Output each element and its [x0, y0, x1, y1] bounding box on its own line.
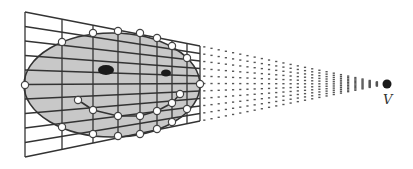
ray-dot [325, 93, 327, 94]
ray-dot [261, 108, 263, 109]
ray-dot [232, 71, 234, 72]
ray-dot [275, 70, 277, 71]
ray-dot [325, 73, 327, 74]
ray-dot [239, 83, 241, 84]
ray-dot [239, 53, 241, 54]
ray-dot [340, 89, 342, 90]
ray-dot [275, 101, 277, 102]
ray-dot [290, 71, 292, 72]
ray-dot [225, 83, 227, 84]
ray-dot [254, 88, 256, 89]
ray-dot [218, 117, 220, 118]
ray-dot [290, 83, 292, 84]
ray-dot [246, 111, 248, 112]
ray-dot [290, 68, 292, 69]
ray-dot [268, 107, 270, 108]
ray-dot [333, 85, 335, 86]
ray-dot [311, 68, 313, 69]
ray-dot [218, 49, 220, 50]
ray-dot [246, 105, 248, 106]
ray-dot [354, 84, 356, 85]
mouth-point [114, 112, 121, 119]
ray-dot [282, 66, 284, 67]
ray-dot [254, 56, 256, 57]
outline-point [114, 27, 121, 34]
ray-dot [232, 95, 234, 96]
ray-dot [290, 79, 292, 80]
ray-dot [268, 102, 270, 103]
ray-dot [347, 91, 349, 92]
ray-dot [311, 80, 313, 81]
ray-dot [340, 83, 342, 84]
ray-dot [354, 87, 356, 88]
ray-dot [232, 58, 234, 59]
ray-dot [239, 95, 241, 96]
ray-dot [340, 81, 342, 82]
ray-dot [325, 78, 327, 79]
ray-dot [347, 88, 349, 89]
ray-dot [261, 63, 263, 64]
ray-dot [325, 83, 327, 84]
ray-dot [261, 83, 263, 84]
ray-dot [325, 90, 327, 91]
ray-dot [304, 77, 306, 78]
ray-dot [210, 62, 212, 63]
ray-dot [254, 109, 256, 110]
ray-dot [282, 79, 284, 80]
ray-dot [261, 103, 263, 104]
ray-dot [268, 97, 270, 98]
ray-dot [311, 89, 313, 90]
ray-dot [333, 94, 335, 95]
ray-dot [304, 70, 306, 71]
ray-dot [268, 64, 270, 65]
ray-dot [254, 83, 256, 84]
ray-dot [282, 75, 284, 76]
ray-dot [210, 104, 212, 105]
mouth-point [136, 112, 143, 119]
ray-dot [246, 77, 248, 78]
ray-dot [203, 90, 205, 91]
ray-dot [246, 72, 248, 73]
ray-dot [340, 85, 342, 86]
ray-dot [261, 78, 263, 79]
left-eye [98, 65, 114, 75]
ray-dot [203, 61, 205, 62]
ray-dot [369, 87, 371, 88]
ray-dot [311, 86, 313, 87]
ray-dot [304, 73, 306, 74]
ray-dot [311, 77, 313, 78]
ray-dot [304, 93, 306, 94]
ray-dot [275, 87, 277, 88]
ray-dot [282, 91, 284, 92]
ray-dot [347, 85, 349, 86]
ray-dot [318, 94, 320, 95]
ray-dot [218, 76, 220, 77]
ray-dot [347, 80, 349, 81]
ray-dot [325, 88, 327, 89]
ray-dot [232, 114, 234, 115]
ray-dot [282, 71, 284, 72]
ray-dot [297, 94, 299, 95]
viewpoint-dot [383, 80, 392, 89]
ray-dot [354, 90, 356, 91]
ray-dot [232, 101, 234, 102]
ray-dot [275, 92, 277, 93]
ray-dot [210, 111, 212, 112]
ray-dot [347, 77, 349, 78]
mouth-point [153, 107, 160, 114]
ray-dot [318, 70, 320, 71]
outline-point [153, 34, 160, 41]
ray-dot [347, 89, 349, 90]
ray-dot [261, 58, 263, 59]
ray-dot [218, 83, 220, 84]
ray-dot [246, 83, 248, 84]
ray-dot [354, 81, 356, 82]
ray-dot [297, 65, 299, 66]
ray-dot [340, 92, 342, 93]
ray-dot [282, 104, 284, 105]
ray-dot [297, 87, 299, 88]
ray-dot [218, 56, 220, 57]
ray-dot [210, 90, 212, 91]
outline-point [196, 80, 203, 87]
ray-dot [210, 83, 212, 84]
